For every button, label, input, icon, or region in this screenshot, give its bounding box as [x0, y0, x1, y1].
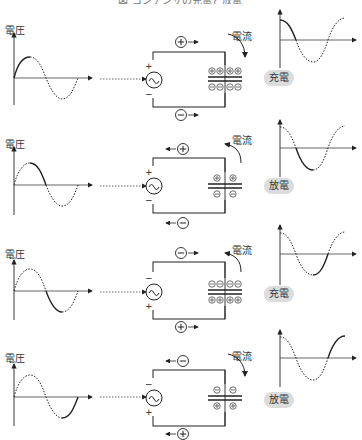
diagram-canvas: + −: [0, 0, 362, 440]
circuit-1: + −: [145, 34, 245, 121]
svg-text:+: +: [145, 301, 153, 311]
current-graph-2: [280, 120, 356, 177]
row-4: − +: [14, 330, 356, 440]
voltage-graph-3: [14, 260, 92, 320]
voltage-graph-4: [14, 364, 92, 426]
circuit-2: + −: [145, 144, 245, 229]
svg-text:+: +: [145, 167, 153, 177]
row-3: − +: [14, 225, 356, 333]
current-graph-4: [280, 330, 356, 387]
circuit-4: − +: [145, 354, 245, 440]
svg-text:−: −: [145, 379, 153, 389]
voltage-graph-2: [14, 147, 92, 215]
row-1: + −: [14, 10, 356, 121]
current-graph-1: [280, 10, 356, 68]
svg-text:−: −: [145, 89, 153, 99]
svg-text:+: +: [145, 407, 153, 417]
svg-text:+: +: [145, 61, 153, 71]
circuit-3: − +: [145, 248, 245, 333]
svg-text:−: −: [145, 195, 153, 205]
row-2: + −: [14, 120, 356, 229]
current-graph-3: [280, 225, 356, 285]
voltage-graph-1: [14, 33, 92, 105]
svg-text:−: −: [145, 273, 153, 283]
